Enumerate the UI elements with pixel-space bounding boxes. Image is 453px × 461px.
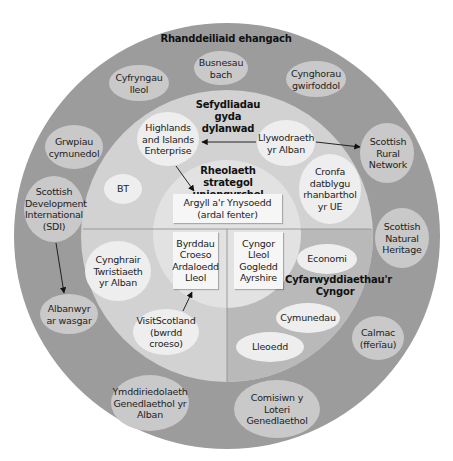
box-argyll: Argyll a'r Ynysoedd (ardal fenter)	[173, 194, 282, 223]
outer-ring-title: Rhanddeiliaid ehangach	[160, 33, 291, 45]
council-title: Cyfarwyddiaethau'r Cyngor	[285, 274, 385, 298]
label-busnesau: Busnesau bach	[197, 57, 245, 80]
label-bt: BT	[117, 183, 129, 195]
label-grwpiau: Grwpiau cymunedol	[46, 136, 102, 159]
label-cronfa: Cronfa datblygu rhanbarthol yr UE	[301, 166, 359, 212]
label-cymunedau: Cymunedau	[280, 312, 335, 324]
box-cyngor: Cyngor Lleol Gogledd Ayrshire	[234, 232, 283, 289]
label-hie: Highlands and Islands Enterprise	[139, 122, 197, 157]
label-comisiwn: Comisiwn y Loteri Genedlaethol	[244, 392, 310, 427]
label-llywodraeth: Llywodraeth yr Alban	[258, 132, 314, 155]
label-cyfryngau: Cyfryngau lleol	[113, 72, 165, 95]
middle-ring-title: Sefydliadau gyda dylanwad	[193, 99, 263, 135]
box-byrddau: Byrddau Croeso Ardaloedd Lleol	[173, 232, 218, 289]
label-lleoedd: Lleoedd	[252, 341, 288, 353]
label-visitscotland: VisitScotland (bwrdd croeso)	[134, 315, 198, 350]
label-cynghorau: Cynghorau gwirfoddol	[288, 68, 344, 91]
label-srn: Scottish Rural Network	[364, 136, 412, 171]
label-economi: Economi	[307, 253, 346, 265]
label-sdi: Scottish Development International (SDI)	[25, 186, 83, 232]
label-albanwyr: Albanwyr ar wasgar	[42, 303, 96, 326]
label-calmac: Calmac (fferïau)	[355, 327, 401, 350]
label-ymddiriedolaeth: Ymddiriedolaeth Genedlaethol yr Alban	[112, 386, 188, 421]
label-cynghrair: Cynghrair Twristiaeth yr Alban	[89, 254, 147, 289]
label-snh: Scottish Natural Heritage	[378, 221, 426, 256]
